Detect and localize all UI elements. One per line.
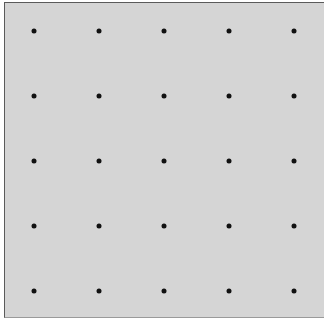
grid-dot bbox=[97, 224, 102, 229]
grid-dot bbox=[97, 289, 102, 294]
grid-dot bbox=[162, 159, 167, 164]
grid-dot bbox=[162, 29, 167, 34]
grid-dot bbox=[227, 224, 232, 229]
grid-dot bbox=[227, 289, 232, 294]
grid-dot bbox=[292, 289, 297, 294]
grid-dot bbox=[97, 29, 102, 34]
grid-dot bbox=[32, 29, 37, 34]
grid-dot bbox=[162, 224, 167, 229]
grid-dot bbox=[32, 94, 37, 99]
grid-dot bbox=[32, 289, 37, 294]
grid-dot bbox=[292, 224, 297, 229]
grid-dot bbox=[162, 289, 167, 294]
grid-dot bbox=[227, 159, 232, 164]
grid-dot bbox=[227, 94, 232, 99]
grid-dot bbox=[292, 29, 297, 34]
grid-dot bbox=[292, 94, 297, 99]
grid-dot bbox=[227, 29, 232, 34]
grid-dot bbox=[292, 159, 297, 164]
grid-dot bbox=[162, 94, 167, 99]
grid-dot bbox=[32, 224, 37, 229]
grid-dot bbox=[97, 94, 102, 99]
grid-dot bbox=[32, 159, 37, 164]
grid-dot bbox=[97, 159, 102, 164]
